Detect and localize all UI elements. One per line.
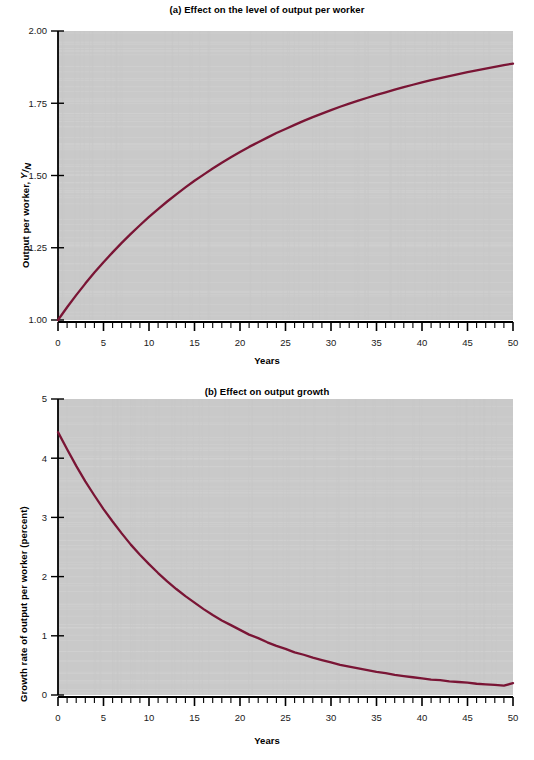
x-tick-label: 15 bbox=[189, 337, 200, 348]
y-tick-label: 2 bbox=[42, 571, 47, 582]
x-tick-label: 40 bbox=[417, 337, 428, 348]
y-tick-label: 1.25 bbox=[29, 242, 48, 253]
panel-b-figure: (b) Effect on output growth Growth rate … bbox=[0, 380, 534, 760]
x-tick-label: 25 bbox=[280, 712, 291, 723]
y-tick-label: 1.50 bbox=[29, 170, 48, 181]
x-tick-label: 5 bbox=[101, 337, 106, 348]
y-tick-label: 1.75 bbox=[29, 98, 48, 109]
x-tick-label: 0 bbox=[55, 712, 60, 723]
x-tick-label: 5 bbox=[101, 712, 106, 723]
x-tick-label: 25 bbox=[280, 337, 291, 348]
y-tick-label: 1.00 bbox=[29, 314, 48, 325]
x-tick-label: 10 bbox=[144, 337, 155, 348]
panel-b-plot: 01234505101520253035404550 bbox=[0, 380, 534, 740]
x-tick-label: 50 bbox=[508, 712, 519, 723]
y-tick-label: 3 bbox=[42, 512, 47, 523]
x-tick-label: 0 bbox=[55, 337, 60, 348]
x-tick-label: 45 bbox=[462, 337, 473, 348]
panel-a-plot: 1.001.251.501.752.0005101520253035404550 bbox=[0, 0, 534, 360]
x-tick-label: 35 bbox=[371, 712, 382, 723]
x-tick-label: 45 bbox=[462, 712, 473, 723]
y-tick-label: 2.00 bbox=[29, 25, 48, 36]
y-tick-label: 1 bbox=[42, 630, 47, 641]
x-tick-label: 30 bbox=[326, 337, 337, 348]
panel-a-x-axis-label: Years bbox=[0, 355, 534, 366]
x-tick-label: 20 bbox=[235, 337, 246, 348]
y-tick-label: 0 bbox=[42, 689, 47, 700]
panel-b-x-axis-label: Years bbox=[0, 735, 534, 746]
x-tick-label: 10 bbox=[144, 712, 155, 723]
x-tick-label: 20 bbox=[235, 712, 246, 723]
panel-a-figure: (a) Effect on the level of output per wo… bbox=[0, 0, 534, 380]
y-tick-label: 4 bbox=[42, 453, 47, 464]
x-tick-label: 30 bbox=[326, 712, 337, 723]
x-tick-label: 35 bbox=[371, 337, 382, 348]
x-tick-label: 50 bbox=[508, 337, 519, 348]
y-tick-label: 5 bbox=[42, 393, 47, 404]
x-tick-label: 15 bbox=[189, 712, 200, 723]
x-tick-label: 40 bbox=[417, 712, 428, 723]
